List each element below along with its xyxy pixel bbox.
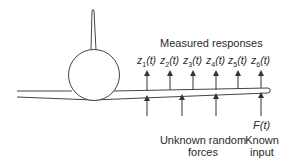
response-z4: z4(t) <box>206 54 225 68</box>
unknown-force-arrows <box>147 96 216 116</box>
known-input-line2: input <box>244 146 280 158</box>
wing <box>17 88 270 100</box>
response-z3: z3(t) <box>183 54 202 68</box>
known-input-line1: Known <box>244 134 280 146</box>
response-z2: z2(t) <box>160 54 179 68</box>
unknown-forces-line2: forces <box>158 146 248 158</box>
known-input-label: Known input <box>244 134 280 158</box>
unknown-forces-line1: Unknown random <box>158 134 248 146</box>
response-z5: z5(t) <box>228 54 247 68</box>
known-force-symbol: F(t) <box>253 119 270 131</box>
response-z6: z6(t) <box>251 54 270 68</box>
measured-responses-title: Measured responses <box>160 37 263 49</box>
fuselage <box>69 50 120 101</box>
unknown-forces-label: Unknown random forces <box>158 134 248 158</box>
tail-fin <box>91 10 96 51</box>
response-z1: z1(t) <box>137 54 156 68</box>
